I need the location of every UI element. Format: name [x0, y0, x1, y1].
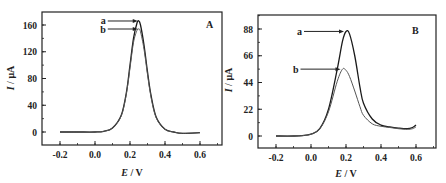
curve-a	[276, 31, 416, 136]
y-tick-label: 66	[244, 51, 254, 61]
y-axis-ticks-b: 022446688	[244, 16, 263, 142]
y-tick-label: 160	[23, 21, 38, 31]
x-tick-label: 0.6	[194, 150, 206, 160]
y-tick-label: 0	[248, 132, 253, 142]
plot-frame-a	[42, 12, 222, 145]
x-tick-label: 0.2	[340, 153, 352, 163]
x-tick-label: 0.2	[124, 150, 136, 160]
y-tick-label: 0	[32, 128, 37, 138]
panel-label-a: A	[206, 19, 214, 30]
x-axis-title-a: E / V	[120, 167, 143, 178]
curve-label-a: a	[297, 26, 302, 37]
curve-b	[60, 29, 200, 134]
x-tick-label: -0.2	[268, 153, 283, 163]
x-axis-ticks-a: -0.20.00.20.40.6	[52, 141, 217, 160]
curve-label-b: b	[100, 24, 106, 35]
arrow-head-icon	[339, 29, 344, 33]
y-tick-label: 44	[244, 78, 254, 88]
y-tick-label: 80	[28, 74, 38, 84]
curve-label-b: b	[293, 64, 299, 75]
curve-a	[60, 21, 200, 134]
x-tick-label: -0.2	[52, 150, 67, 160]
curve-b	[276, 68, 416, 136]
x-tick-label: 0.4	[375, 153, 387, 163]
y-tick-label: 120	[23, 47, 38, 57]
curves-a	[60, 21, 200, 134]
curve-arrows-a: ab	[100, 15, 138, 34]
x-axis-ticks-b: -0.20.00.20.40.6	[268, 144, 433, 163]
x-tick-label: 0.4	[159, 150, 171, 160]
panel-b: 022446688 -0.20.00.20.40.6 ab B E / V I …	[223, 15, 436, 179]
curves-b	[276, 31, 416, 136]
y-tick-label: 88	[244, 25, 254, 35]
curve-arrows-b: ab	[293, 26, 344, 75]
x-tick-label: 0.6	[410, 153, 422, 163]
figure: 04080120160 -0.20.00.20.40.6 ab A E / V …	[0, 0, 446, 183]
y-tick-label: 22	[244, 105, 254, 115]
panel-label-b: B	[412, 25, 419, 36]
x-tick-label: 0.0	[89, 150, 101, 160]
x-tick-label: 0.0	[305, 153, 317, 163]
y-tick-label: 40	[28, 101, 38, 111]
panel-a: 04080120160 -0.20.00.20.40.6 ab A E / V …	[5, 12, 222, 178]
y-axis-title-b: I / μA	[223, 67, 234, 93]
x-axis-title-b: E / V	[334, 168, 357, 179]
y-axis-title-a: I / μA	[5, 65, 16, 91]
